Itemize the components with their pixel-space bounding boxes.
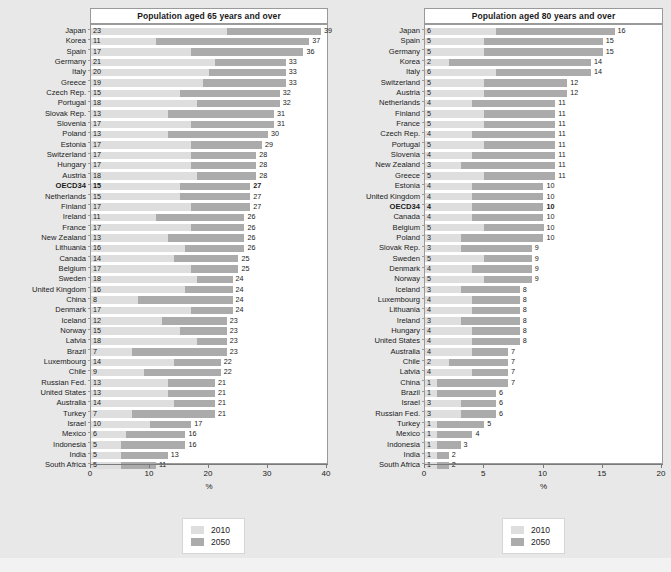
value-label-2050: 6: [499, 398, 503, 408]
value-label-2010: 7: [93, 347, 97, 357]
value-label-2010: 5: [427, 254, 431, 264]
bar-segment-2010: [91, 255, 174, 262]
bar-segment-2010: [91, 38, 156, 45]
value-label-2050: 8: [523, 305, 527, 315]
category-label-australia: Australia: [0, 398, 86, 408]
value-label-2010: 1: [427, 378, 431, 388]
bar-row: Denmark49: [338, 264, 667, 274]
legend-label: 2010: [211, 525, 230, 535]
bar-segment-2050: [156, 214, 245, 221]
legend-label: 2050: [211, 537, 230, 547]
bar-segment-2010: [91, 359, 174, 366]
bar-row: Chile27: [338, 357, 667, 367]
bar-group: [91, 431, 185, 438]
category-label-germany: Germany: [0, 57, 86, 67]
bar-segment-2050: [191, 203, 250, 210]
category-label-poland: Poland: [0, 129, 86, 139]
category-label-iceland: Iceland: [0, 316, 86, 326]
category-label-finland: Finland: [0, 202, 86, 212]
bar-row: Finland511: [338, 109, 667, 119]
bar-group: [91, 348, 227, 355]
bar-group: [425, 28, 615, 35]
category-label-estonia: Estonia: [0, 140, 86, 150]
value-label-2050: 27: [253, 181, 261, 191]
bar-segment-2010: [425, 369, 472, 376]
bar-segment-2010: [91, 183, 180, 190]
value-label-2010: 5: [427, 274, 431, 284]
chart-panel-population-80-plus: Population aged 80 years and over Japan6…: [338, 8, 667, 508]
bar-segment-2050: [144, 369, 221, 376]
category-label-mexico: Mexico: [272, 429, 420, 439]
bar-segment-2010: [425, 183, 472, 190]
value-label-2010: 3: [427, 233, 431, 243]
bar-segment-2050: [174, 400, 215, 407]
value-label-2010: 5: [93, 460, 97, 470]
category-label-belgium: Belgium: [272, 223, 420, 233]
figure-root: Population aged 65 years and over Japan2…: [0, 0, 671, 572]
category-label-korea: Korea: [272, 57, 420, 67]
value-label-2010: 6: [93, 429, 97, 439]
bar-segment-2010: [425, 90, 484, 97]
bar-group: [91, 59, 286, 66]
bar-segment-2050: [461, 317, 520, 324]
bar-segment-2010: [91, 28, 227, 35]
bar-row: Austria512: [338, 88, 667, 98]
bar-group: [91, 183, 250, 190]
value-label-2050: 4: [475, 429, 479, 439]
category-label-switzerland: Switzerland: [272, 78, 420, 88]
bar-segment-2010: [91, 286, 185, 293]
value-label-2010: 1: [427, 450, 431, 460]
bar-segment-2010: [425, 224, 484, 231]
value-label-2050: 21: [218, 378, 226, 388]
bar-group: [425, 152, 555, 159]
bar-group: [425, 90, 567, 97]
axis-tick: [424, 464, 425, 468]
bar-segment-2010: [425, 152, 472, 159]
bar-group: [425, 338, 520, 345]
bar-segment-2050: [484, 224, 543, 231]
value-label-2050: 21: [218, 398, 226, 408]
bar-row: Estonia410: [338, 181, 667, 191]
bar-segment-2050: [484, 141, 555, 148]
legend-swatch-2050: [511, 538, 524, 546]
bar-segment-2050: [449, 359, 508, 366]
bar-segment-2010: [425, 296, 472, 303]
value-label-2010: 3: [427, 285, 431, 295]
bar-row: Brazil16: [338, 388, 667, 398]
axis-tick-label: 10: [145, 469, 154, 478]
value-label-2010: 18: [93, 171, 101, 181]
bar-segment-2050: [461, 234, 544, 241]
bar-segment-2010: [91, 162, 191, 169]
value-label-2050: 14: [594, 67, 602, 77]
value-label-2010: 13: [93, 109, 101, 119]
bar-segment-2050: [484, 79, 567, 86]
bar-segment-2050: [484, 48, 603, 55]
category-label-latvia: Latvia: [0, 336, 86, 346]
value-label-2050: 16: [188, 440, 196, 450]
value-label-2010: 2: [427, 357, 431, 367]
bar-segment-2010: [91, 338, 197, 345]
value-label-2010: 17: [93, 264, 101, 274]
value-label-2010: 5: [427, 47, 431, 57]
bar-row: Norway59: [338, 274, 667, 284]
bar-segment-2010: [425, 214, 472, 221]
value-label-2010: 18: [93, 274, 101, 284]
category-label-latvia: Latvia: [272, 367, 420, 377]
bar-segment-2010: [91, 131, 168, 138]
value-label-2010: 4: [427, 336, 431, 346]
value-label-2050: 28: [259, 171, 267, 181]
value-label-2010: 18: [93, 336, 101, 346]
axis-tick-label: 20: [657, 469, 666, 478]
bar-segment-2050: [496, 69, 591, 76]
value-label-2010: 11: [93, 212, 100, 222]
bar-group: [425, 327, 520, 334]
bar-row: Poland310: [338, 233, 667, 243]
value-label-2010: 4: [427, 264, 431, 274]
category-label-hungary: Hungary: [0, 160, 86, 170]
value-label-2010: 17: [93, 202, 101, 212]
category-label-israel: Israel: [272, 398, 420, 408]
category-label-new-zealand: New Zealand: [0, 233, 86, 243]
value-label-2010: 5: [427, 171, 431, 181]
bar-group: [91, 452, 168, 459]
category-label-slovenia: Slovenia: [272, 150, 420, 160]
